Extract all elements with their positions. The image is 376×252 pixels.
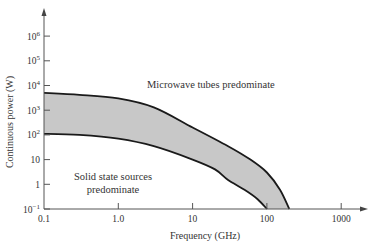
y-tick-label: 105 — [27, 54, 41, 66]
y-tick-label: 10−1 — [23, 203, 40, 215]
x-tick-label: 1000 — [332, 214, 351, 224]
x-tick-label: 1.0 — [112, 214, 124, 224]
y-tick-label: 103 — [27, 104, 41, 116]
tubes-annotation: Microwave tubes predominate — [147, 79, 275, 90]
y-tick-label: 1 — [35, 180, 40, 190]
chart-svg: 10−1110102103104105106 0.11.0101001000 F… — [0, 0, 376, 252]
x-axis-arrow-icon — [360, 207, 368, 212]
x-tick-label: 100 — [260, 214, 275, 224]
y-tick-label: 102 — [27, 128, 41, 140]
x-tick-label: 0.1 — [38, 214, 50, 224]
x-ticks: 0.11.0101001000 — [38, 203, 351, 224]
y-tick-label: 104 — [27, 79, 41, 91]
x-tick-label: 10 — [188, 214, 198, 224]
y-axis-label: Continuous power (W) — [4, 76, 16, 168]
solid-state-annotation-line1: Solid state sources — [74, 171, 152, 182]
y-tick-label: 106 — [27, 30, 41, 42]
x-axis-label: Frequency (GHz) — [170, 230, 240, 242]
solid-state-annotation-line2: predominate — [87, 184, 140, 195]
y-tick-label: 10 — [31, 155, 41, 165]
y-axis-arrow-icon — [42, 8, 47, 16]
